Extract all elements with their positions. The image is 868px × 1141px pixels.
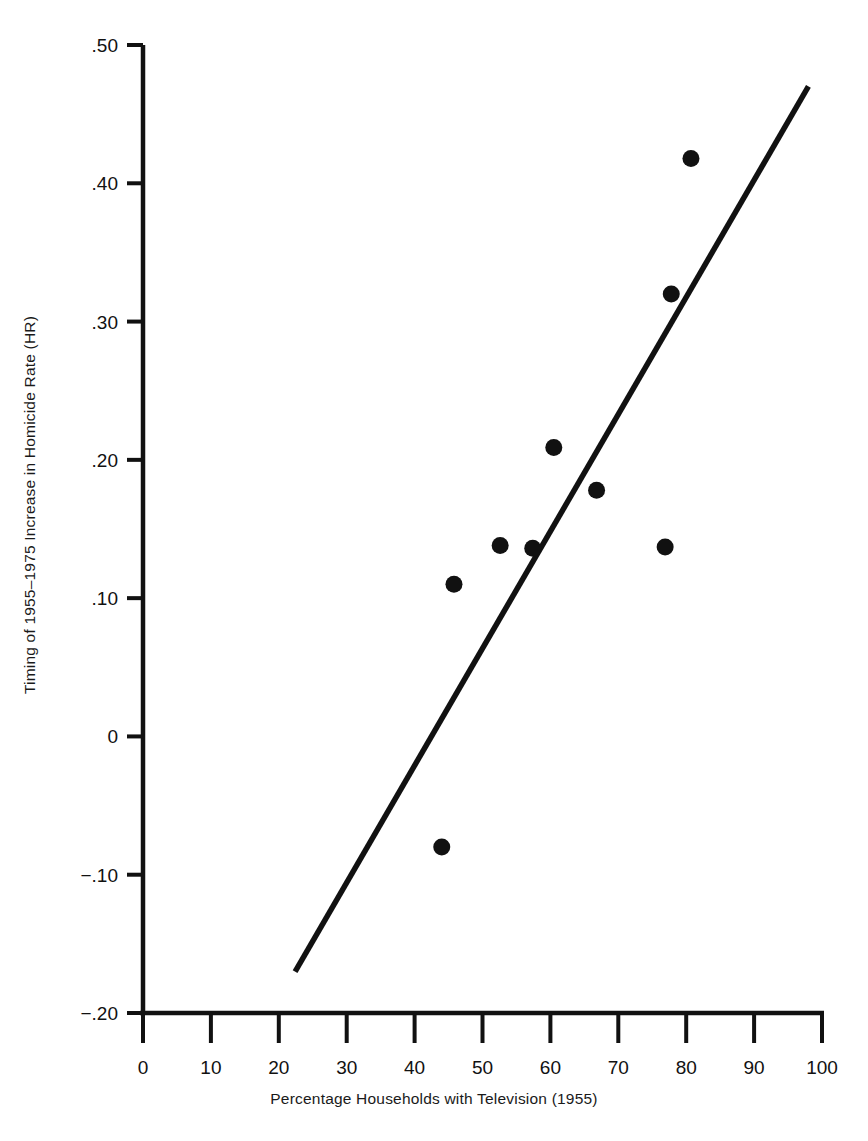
y-tick-label: .10 (92, 588, 118, 609)
x-axis-ticks: 0102030405060708090100 (138, 1013, 838, 1078)
y-tick-label: 0 (107, 726, 118, 747)
x-tick-label: 100 (806, 1057, 838, 1078)
data-point (524, 540, 541, 557)
scatter-plot-figure: Timing of 1955–1975 Increase in Homicide… (0, 0, 868, 1141)
y-tick-label: −.20 (80, 1003, 118, 1024)
x-tick-label: 30 (336, 1057, 357, 1078)
data-point (492, 537, 509, 554)
regression-line-segment (295, 86, 808, 971)
data-point (545, 439, 562, 456)
data-point (663, 285, 680, 302)
y-tick-label: .50 (92, 35, 118, 56)
x-tick-label: 20 (268, 1057, 289, 1078)
y-tick-label: .30 (92, 312, 118, 333)
x-tick-label: 60 (540, 1057, 561, 1078)
x-tick-label: 10 (200, 1057, 221, 1078)
y-axis-ticks: .50.40.30.20.100−.10−.20 (80, 35, 143, 1024)
y-tick-label: .20 (92, 450, 118, 471)
x-tick-label: 50 (472, 1057, 493, 1078)
data-point (433, 839, 450, 856)
x-tick-label: 0 (138, 1057, 149, 1078)
x-tick-label: 90 (744, 1057, 765, 1078)
regression-line (295, 86, 808, 971)
data-point (682, 150, 699, 167)
y-tick-label: .40 (92, 173, 118, 194)
data-point (657, 538, 674, 555)
data-point (588, 482, 605, 499)
y-tick-label: −.10 (80, 865, 118, 886)
x-axis-title: Percentage Households with Television (1… (270, 1090, 597, 1107)
x-tick-label: 70 (608, 1057, 629, 1078)
x-axis-title-container: Percentage Households with Television (1… (0, 1090, 868, 1108)
x-tick-label: 80 (676, 1057, 697, 1078)
data-point (445, 576, 462, 593)
plot-canvas: .50.40.30.20.100−.10−.20 010203040506070… (0, 0, 868, 1141)
x-tick-label: 40 (404, 1057, 425, 1078)
